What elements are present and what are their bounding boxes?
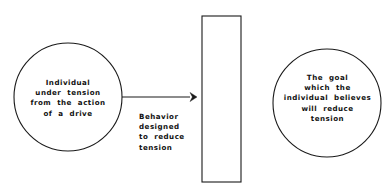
diagram-text-layer: Individual under tension from the action… — [0, 0, 391, 191]
behavior-arrow-label: Behavior designed to reduce tension — [139, 112, 201, 153]
left-circle-label: Individual under tension from the action… — [14, 78, 122, 119]
right-circle-label: The goal which the individual believes w… — [273, 73, 382, 124]
diagram-canvas: Individual under tension from the action… — [0, 0, 391, 191]
